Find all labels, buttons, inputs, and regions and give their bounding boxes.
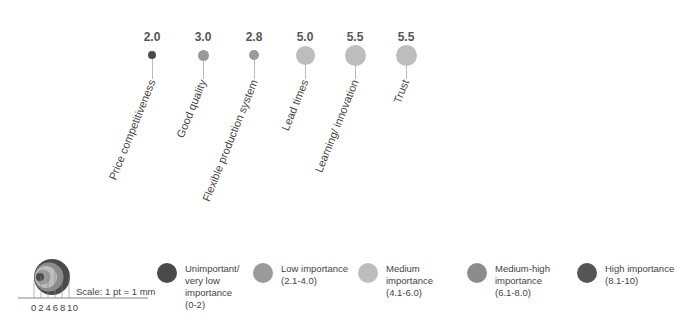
value-label: 5.5 — [335, 30, 375, 44]
value-label: 5.5 — [386, 30, 426, 44]
stem-line — [152, 59, 153, 79]
legend-label: High importance (8.1-10) — [605, 263, 693, 287]
legend-label: Medium importance (4.1-6.0) — [386, 263, 476, 299]
legend-swatch — [467, 263, 487, 283]
category-label: Good quality — [174, 78, 208, 140]
legend-label: Medium-high importance (6.1-8.0) — [495, 263, 585, 299]
value-label: 3.0 — [183, 30, 223, 44]
value-label: 2.8 — [234, 30, 274, 44]
scale-legend: 0 2 4 6 8 10 Scale: 1 pt = 1 mm — [0, 250, 160, 320]
scale-ticks: 0 2 4 6 8 10 — [31, 302, 78, 313]
category-label: Lead times — [279, 78, 310, 132]
legend-swatch — [358, 263, 378, 283]
nested-circles-scale-icon — [0, 250, 160, 320]
category-label: Learning/ innovation — [312, 78, 360, 174]
bubble — [148, 51, 156, 59]
bubble — [198, 50, 209, 61]
stem-line — [355, 65, 356, 79]
legend-swatch — [577, 263, 597, 283]
bubble — [345, 45, 366, 66]
category-label: Trust — [391, 78, 411, 105]
category-label: Price competitiveness — [106, 78, 157, 182]
bubble — [249, 50, 259, 60]
bubble — [296, 46, 315, 65]
value-label: 2.0 — [132, 30, 172, 44]
category-label: Flexible production system — [200, 78, 260, 203]
legend-swatch — [253, 263, 273, 283]
stem-line — [203, 60, 204, 79]
stem-line — [254, 60, 255, 79]
stem-line — [305, 64, 306, 79]
stem-line — [406, 65, 407, 79]
legend-swatch — [157, 263, 177, 283]
bubble — [396, 45, 417, 66]
value-label: 5.0 — [285, 30, 325, 44]
scale-label: Scale: 1 pt = 1 mm — [76, 286, 155, 297]
